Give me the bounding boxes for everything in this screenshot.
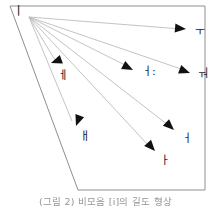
origin-vowel-label: ㅣ	[13, 5, 24, 17]
vowel-label-e: ㅔ	[58, 70, 68, 81]
vowel-label-o: ㅝ	[198, 68, 208, 79]
vowel-label-ae: ㅐ	[80, 131, 90, 142]
vowel-diagram-canvas	[0, 0, 211, 208]
vowel-label-eo-long: ㅓ:	[142, 66, 156, 77]
figure-caption: (그림 2) 비모음 [i]의 길도 형상	[39, 196, 172, 207]
vowel-label-u: ㅜ	[195, 26, 205, 37]
caption-bar: (그림 2) 비모음 [i]의 길도 형상	[0, 196, 211, 208]
vowel-transition-figure: ㅣ ㅜ ㅝ ㅓ: ㅓ ㅏ ㅔ ㅐ (그림 2) 비모음 [i]의 길도 형상	[0, 0, 211, 208]
vowel-label-eo: ㅓ	[182, 133, 192, 144]
vowel-label-a: ㅏ	[160, 155, 170, 166]
